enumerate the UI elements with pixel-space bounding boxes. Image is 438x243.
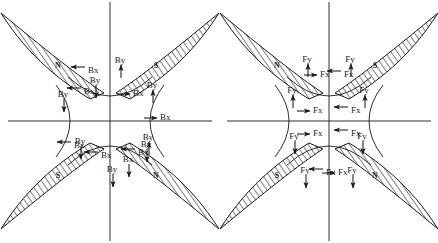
component-label-bx: Bx [84,86,95,96]
component-label-bx: Bx [160,112,171,122]
component-label-fx: Fx [326,167,336,177]
component-label-by: By [90,75,101,85]
component-label-by: By [115,55,126,65]
pole-label-top-right: S [154,61,159,70]
magnetic-force-components: NSSN [220,2,438,241]
component-label-bx: Bx [123,154,134,164]
component-label-fx: Fx [344,69,354,79]
magnetic-flux-density-components: NSSN [1,2,219,241]
pole-shape-bottom-left [1,143,104,229]
component-label-by: By [75,136,86,146]
component-label-fy: Fy [345,54,355,64]
pole-label-bottom-left: S [275,171,280,180]
component-label-fy: Fy [287,85,297,95]
component-label-fx: Fx [313,128,323,138]
component-label-bx: Bx [88,65,99,75]
pole-label-top-right: S [373,61,378,70]
component-label-by: By [107,164,118,174]
panel-group: NSSNNSSN [1,2,438,241]
pole-bottom-right [335,143,438,229]
pole-shape-bottom-left [220,143,323,229]
component-label-fy: Fy [357,131,367,141]
pole-label-bottom-left: S [56,171,61,180]
pole-shape-bottom-right [335,143,438,229]
figure-canvas: NSSNNSSN BxByBxByBxByByBxBxByByBxBxByByB… [0,0,438,243]
two-panel-magnetic-pole-diagram: NSSNNSSN BxByBxByBxByByBxBxByByBxBxByByB… [0,0,438,243]
pole-label-bottom-right: N [372,171,378,180]
pole-shape-top-right [116,13,219,99]
component-label-fx: Fx [313,105,323,115]
component-label-bx: Bx [133,88,144,98]
component-label-by: By [147,80,158,90]
component-label-fy: Fy [289,131,299,141]
component-label-bx: Bx [101,150,112,160]
component-label-fy: Fy [347,165,357,175]
component-label-fx: Fx [351,105,361,115]
component-label-fy: Fy [302,54,312,64]
component-label-fy: Fy [359,85,369,95]
pole-bottom-left [1,143,104,229]
pole-label-top-left: N [55,61,61,70]
component-label-by: By [58,89,69,99]
component-label-by: By [141,139,152,149]
pole-label-top-left: N [274,61,280,70]
pole-label-bottom-right: N [153,171,159,180]
pole-top-right [116,13,219,99]
pole-bottom-left [220,143,323,229]
component-label-fy: Fy [300,165,310,175]
